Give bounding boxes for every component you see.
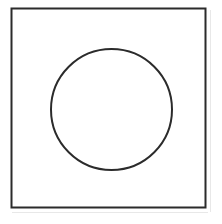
square-outline	[12, 9, 206, 208]
circle-outline	[51, 49, 172, 170]
figure-svg	[0, 0, 222, 224]
figure-canvas	[0, 0, 222, 224]
